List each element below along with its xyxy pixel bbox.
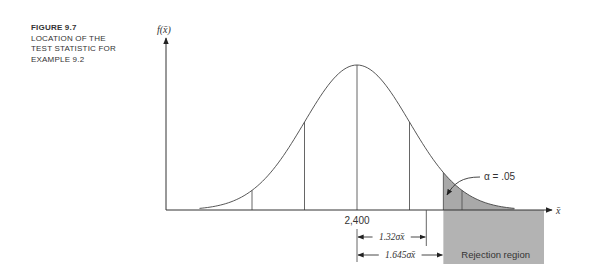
x-axis-label: x̄ <box>555 205 561 216</box>
alpha-annotation: α = .05 <box>484 171 516 182</box>
dimension-label: 1.645σx̄ <box>385 250 416 260</box>
sigma-lines <box>252 65 462 210</box>
dimension-markers: 1.32σx̄1.645σx̄ <box>357 229 442 262</box>
y-axis-label: f(x̄) <box>157 24 172 36</box>
dimension-label: 1.32σx̄ <box>379 232 405 242</box>
rejection-region-label: Rejection region <box>461 249 530 260</box>
normal-curve-chart: f(x̄) x̄ 2,400 α = .05 1.32σx̄1.645σx̄ R… <box>0 0 591 264</box>
mean-tick-label: 2,400 <box>344 215 369 226</box>
